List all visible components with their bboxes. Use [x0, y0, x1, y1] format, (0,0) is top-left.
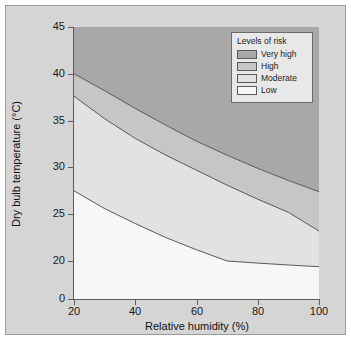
y-tick-mark	[68, 74, 73, 75]
y-tick-label: 20	[53, 255, 65, 266]
legend-label: Moderate	[261, 74, 297, 83]
x-tick-label: 60	[180, 306, 214, 317]
y-axis-title: Dry bulb temperature (°C)	[10, 100, 22, 226]
legend: Levels of risk Very highHighModerateLow	[231, 32, 313, 103]
legend-title: Levels of risk	[237, 37, 308, 46]
legend-swatch	[237, 86, 257, 95]
y-tick-mark	[68, 167, 73, 168]
legend-label: High	[261, 62, 278, 71]
x-tick-label: 100	[302, 306, 336, 317]
y-tick-mark	[68, 121, 73, 122]
y-tick-label: 0	[59, 293, 65, 304]
figure-panel: 0202530354045 20406080100 Dry bulb tempe…	[5, 5, 346, 335]
y-tick-label: 30	[53, 161, 65, 172]
x-tick-label: 80	[241, 306, 275, 317]
y-tick-label: 45	[53, 21, 65, 32]
legend-swatch	[237, 74, 257, 83]
legend-items: Very highHighModerateLow	[237, 49, 308, 95]
legend-label: Low	[261, 86, 277, 95]
x-tick-label: 40	[118, 306, 152, 317]
x-tick-label: 20	[57, 306, 91, 317]
y-tick-label: 40	[53, 68, 65, 79]
y-tick-label: 35	[53, 115, 65, 126]
x-axis-title: Relative humidity (%)	[74, 320, 320, 332]
legend-swatch	[237, 62, 257, 71]
legend-item: Moderate	[237, 73, 308, 83]
y-tick-label: 25	[53, 208, 65, 219]
legend-swatch	[237, 50, 257, 59]
legend-item: Low	[237, 85, 308, 95]
legend-label: Very high	[261, 50, 296, 59]
legend-item: Very high	[237, 49, 308, 59]
y-tick-mark	[68, 27, 73, 28]
y-axis-line	[73, 27, 74, 300]
y-tick-mark	[68, 214, 73, 215]
legend-item: High	[237, 61, 308, 71]
y-tick-mark	[68, 299, 73, 300]
y-axis-title-container: Dry bulb temperature (°C)	[6, 27, 26, 300]
y-tick-mark	[68, 261, 73, 262]
